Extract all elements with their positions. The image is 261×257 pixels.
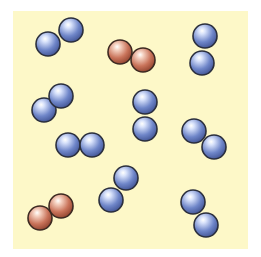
blue-atom-sphere [114, 166, 138, 190]
blue-atom-sphere [202, 135, 226, 159]
blue-atom-sphere [80, 133, 104, 157]
red-atom-sphere [108, 40, 132, 64]
blue-atom-sphere [190, 51, 214, 75]
blue-atom-sphere [181, 190, 205, 214]
red-atom-sphere [28, 206, 52, 230]
molecule-diagram [0, 0, 261, 257]
red-atom-sphere [131, 48, 155, 72]
blue-atom-sphere [99, 188, 123, 212]
red-atom-sphere [49, 194, 73, 218]
blue-atom-sphere [193, 24, 217, 48]
blue-atom-sphere [56, 133, 80, 157]
blue-atom-sphere [59, 18, 83, 42]
blue-atom-sphere [36, 32, 60, 56]
blue-atom-sphere [182, 119, 206, 143]
blue-atom-sphere [133, 117, 157, 141]
blue-atom-sphere [49, 84, 73, 108]
blue-atom-sphere [133, 90, 157, 114]
blue-atom-sphere [194, 213, 218, 237]
